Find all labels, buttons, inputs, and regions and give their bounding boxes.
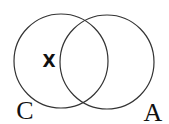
venn-diagram: X C A [0,0,169,124]
set-c-label: C [16,96,33,124]
set-a-label: A [144,98,163,124]
set-c-circle [14,14,108,108]
set-a-circle [60,15,154,109]
marker-x-label: X [42,51,55,71]
